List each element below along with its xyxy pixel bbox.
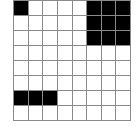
- grid-cell-filled[interactable]: [87, 1, 102, 16]
- grid-cell-empty[interactable]: [43, 31, 58, 46]
- grid-cell-filled[interactable]: [87, 31, 102, 46]
- grid-cell-empty[interactable]: [29, 1, 44, 16]
- grid-cell-empty[interactable]: [87, 61, 102, 76]
- grid-cell-empty[interactable]: [43, 61, 58, 76]
- grid-cell-empty[interactable]: [29, 76, 44, 91]
- grid-cell-empty[interactable]: [29, 16, 44, 31]
- grid-cell-empty[interactable]: [116, 76, 131, 91]
- grid-cell-empty[interactable]: [116, 106, 131, 121]
- grid-cell-empty[interactable]: [58, 106, 73, 121]
- grid-cell-empty[interactable]: [73, 1, 88, 16]
- grid-cell-empty[interactable]: [102, 106, 117, 121]
- grid-cell-empty[interactable]: [29, 46, 44, 61]
- grid-cell-empty[interactable]: [43, 46, 58, 61]
- grid-cell-empty[interactable]: [102, 91, 117, 106]
- grid-cell-empty[interactable]: [14, 46, 29, 61]
- grid-cell-empty[interactable]: [73, 76, 88, 91]
- grid-cell-empty[interactable]: [14, 106, 29, 121]
- grid-cell-filled[interactable]: [102, 31, 117, 46]
- grid-cell-filled[interactable]: [43, 91, 58, 106]
- grid-cell-empty[interactable]: [87, 76, 102, 91]
- grid-cell-empty[interactable]: [43, 1, 58, 16]
- grid-cell-empty[interactable]: [58, 31, 73, 46]
- grid-cell-filled[interactable]: [116, 1, 131, 16]
- grid-cell-empty[interactable]: [29, 31, 44, 46]
- grid-cell-empty[interactable]: [43, 76, 58, 91]
- grid-cell-empty[interactable]: [58, 61, 73, 76]
- grid-cell-filled[interactable]: [14, 91, 29, 106]
- grid-cell-filled[interactable]: [102, 16, 117, 31]
- grid-cell-empty[interactable]: [87, 91, 102, 106]
- grid-cell-empty[interactable]: [29, 61, 44, 76]
- grid-cell-empty[interactable]: [73, 16, 88, 31]
- grid-cell-empty[interactable]: [14, 76, 29, 91]
- grid-cell-empty[interactable]: [73, 46, 88, 61]
- grid-cell-empty[interactable]: [14, 61, 29, 76]
- puzzle-grid: [13, 0, 131, 121]
- grid-cell-empty[interactable]: [58, 76, 73, 91]
- grid-cell-empty[interactable]: [43, 16, 58, 31]
- grid-cell-filled[interactable]: [29, 91, 44, 106]
- grid-cell-empty[interactable]: [43, 106, 58, 121]
- grid-cell-empty[interactable]: [14, 16, 29, 31]
- grid-cell-empty[interactable]: [73, 106, 88, 121]
- grid-cell-empty[interactable]: [116, 46, 131, 61]
- grid-cell-empty[interactable]: [73, 61, 88, 76]
- grid-cell-empty[interactable]: [58, 46, 73, 61]
- grid-cell-empty[interactable]: [102, 46, 117, 61]
- grid-cell-empty[interactable]: [58, 16, 73, 31]
- grid-cell-empty[interactable]: [14, 31, 29, 46]
- grid-cell-empty[interactable]: [116, 91, 131, 106]
- grid-cell-empty[interactable]: [29, 106, 44, 121]
- grid-cell-filled[interactable]: [102, 1, 117, 16]
- grid-cell-empty[interactable]: [87, 106, 102, 121]
- grid-cell-empty[interactable]: [73, 31, 88, 46]
- grid-cell-filled[interactable]: [116, 31, 131, 46]
- grid-cell-empty[interactable]: [116, 61, 131, 76]
- grid-cell-empty[interactable]: [102, 76, 117, 91]
- grid-cell-empty[interactable]: [102, 61, 117, 76]
- grid-cell-filled[interactable]: [87, 16, 102, 31]
- grid-cell-empty[interactable]: [87, 46, 102, 61]
- grid-cell-empty[interactable]: [58, 91, 73, 106]
- grid-cell-empty[interactable]: [73, 91, 88, 106]
- grid-cell-filled[interactable]: [116, 16, 131, 31]
- grid-cell-filled[interactable]: [14, 1, 29, 16]
- grid-cell-empty[interactable]: [58, 1, 73, 16]
